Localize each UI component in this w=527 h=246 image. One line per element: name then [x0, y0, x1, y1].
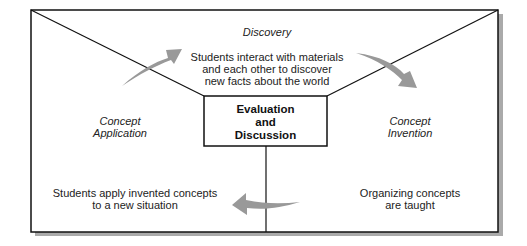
application-title-line1: Concept — [70, 115, 170, 127]
application-desc-line2: to a new situation — [35, 199, 235, 211]
invention-title-line1: Concept — [360, 115, 460, 127]
invention-desc-line2: are taught — [350, 199, 470, 211]
application-title-line2: Application — [70, 127, 170, 139]
discovery-desc-line2: and each other to discover — [172, 63, 362, 75]
center-line2: and — [204, 116, 327, 129]
discovery-desc-line3: new facts about the world — [172, 75, 362, 87]
invention-title-line2: Invention — [360, 127, 460, 139]
center-line3: Discussion — [204, 129, 327, 142]
center-line1: Evaluation — [204, 103, 327, 116]
application-desc-line1: Students apply invented concepts — [35, 187, 235, 199]
discovery-title: Discovery — [222, 26, 312, 38]
discovery-desc-line1: Students interact with materials — [172, 51, 362, 63]
invention-desc-line1: Organizing concepts — [350, 187, 470, 199]
